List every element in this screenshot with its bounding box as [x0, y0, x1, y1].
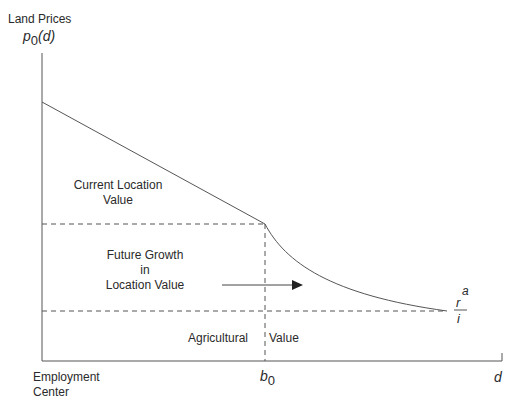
ra-base: r	[456, 295, 460, 310]
agricultural-label-left: Agricultural	[188, 331, 248, 346]
y-symbol-base: p	[23, 28, 31, 44]
y-axis-symbol: p0(d)	[23, 29, 55, 48]
current-location-line2: Value	[58, 193, 178, 208]
x-axis-symbol: d	[494, 370, 502, 385]
agricultural-label-right: Value	[269, 331, 299, 346]
ra-numerator: r	[456, 295, 460, 310]
future-growth-label: Future Growth in Location Value	[90, 248, 200, 293]
future-growth-line1: Future Growth	[90, 248, 200, 263]
b0-base: b	[260, 368, 268, 384]
b0-subscript: 0	[268, 373, 275, 388]
origin-line2: Center	[33, 385, 100, 400]
current-location-value-label: Current Location Value	[58, 178, 178, 208]
growth-arrow-head-icon	[292, 280, 303, 290]
future-growth-line2: in	[90, 263, 200, 278]
current-location-line1: Current Location	[58, 178, 178, 193]
future-growth-line3: Location Value	[90, 278, 200, 293]
b0-tick-label: b0	[260, 369, 275, 388]
origin-label: Employment Center	[33, 370, 100, 400]
origin-line1: Employment	[33, 370, 100, 385]
y-axis-title: Land Prices	[8, 12, 71, 27]
y-symbol-subscript: 0	[31, 33, 38, 48]
ra-denominator: i	[457, 311, 460, 326]
y-symbol-arg: (d)	[38, 28, 55, 44]
ra-superscript: a	[462, 284, 469, 299]
price-gradient-decay-segment	[265, 224, 447, 311]
